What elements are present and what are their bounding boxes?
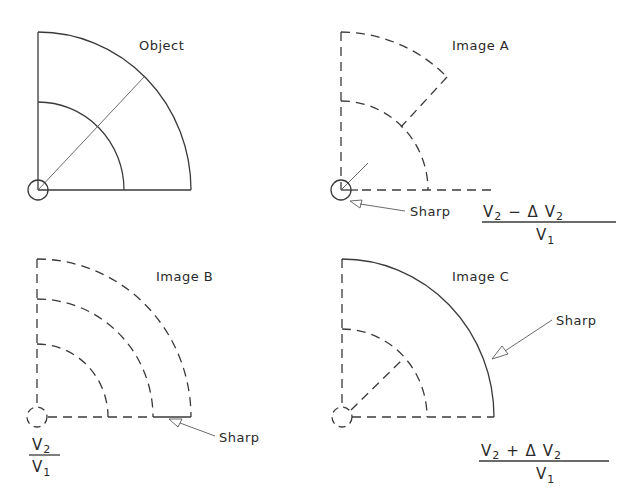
image-b-sharp-arrow-shaft: [180, 423, 215, 436]
image-c-numerator: V2+ Δ V2: [481, 442, 562, 462]
image-a-diagonal: [341, 163, 368, 190]
image-c-sharp-arrow-shaft: [505, 320, 552, 351]
image-c-inner-arc: [342, 329, 427, 417]
image-c-sharp-label: Sharp: [556, 313, 597, 328]
focus-diagram: Object Image A Sharp V2− Δ V2 V1 Image B: [0, 0, 640, 494]
image-b-inner-arc: [37, 344, 108, 417]
image-b-numerator: V2: [32, 436, 51, 456]
image-b-sharp-arrow-head: [169, 419, 182, 427]
image-c-origin-circle: [332, 407, 352, 427]
image-b-middle-arc: [37, 299, 153, 417]
image-b-denominator: V1: [32, 458, 51, 479]
image-a-sharp-label: Sharp: [410, 204, 451, 219]
image-c-title: Image C: [452, 269, 509, 284]
image-c-denominator: V1: [536, 465, 555, 486]
image-b-title: Image B: [156, 269, 213, 284]
image-a-title: Image A: [452, 38, 509, 53]
panel-image-b: Image B Sharp V2 V1: [27, 259, 260, 479]
image-c-diagonal: [351, 358, 404, 410]
image-b-origin-circle: [27, 407, 47, 427]
image-a-radial-edge: [401, 77, 447, 127]
image-b-sharp-label: Sharp: [219, 430, 260, 445]
panel-image-a: Image A Sharp V2− Δ V2 V1: [331, 32, 616, 247]
panel-object: Object: [28, 32, 191, 200]
image-a-numerator: V2− Δ V2: [483, 203, 564, 223]
object-title: Object: [139, 38, 184, 53]
image-c-sharp-arrow-head: [492, 346, 508, 359]
image-a-outer-arc: [341, 32, 447, 77]
image-a-sharp-arrow-shaft: [360, 204, 405, 211]
image-a-denominator: V1: [536, 226, 555, 247]
object-diagonal: [38, 77, 144, 190]
object-outer-arc: [38, 32, 191, 190]
panel-image-c: Image C Sharp V2+ Δ V2 V1: [332, 259, 609, 486]
